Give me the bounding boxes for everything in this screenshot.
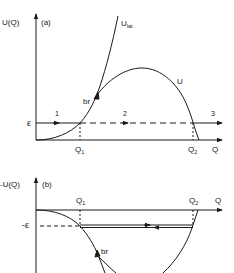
panel-a-y-label: U(Q) xyxy=(2,19,19,27)
panel-a-q1-label: Q1 xyxy=(75,146,84,156)
panel-a-q2-label: Q2 xyxy=(188,146,197,156)
panel-b-branch-label: br xyxy=(101,248,108,256)
panel-b xyxy=(36,178,222,273)
panel-b-tag: (b) xyxy=(42,181,52,189)
curve-u-label: U xyxy=(177,78,183,86)
curve-u xyxy=(97,68,199,140)
panel-a-q2-sub: 2 xyxy=(194,149,197,155)
panel-b-q1-sub: 1 xyxy=(82,200,85,206)
curve-u-lat-label-sub: lat xyxy=(127,23,133,29)
panel-b-x-label: Q xyxy=(215,197,221,205)
panel-b-q2-sub: 2 xyxy=(195,200,198,206)
panel-b-q2-label: Q2 xyxy=(189,197,198,207)
panel-b-q1-label: Q1 xyxy=(76,197,85,207)
panel-a-energy-label: ε xyxy=(27,119,31,128)
region-1-label: 1 xyxy=(55,110,59,117)
region-3-label: 3 xyxy=(211,110,215,117)
panel-a xyxy=(36,14,222,140)
branch-point-icon-a xyxy=(94,92,99,99)
curve-neg-u xyxy=(97,255,116,273)
panel-b-y-label: -U(Q) xyxy=(0,181,20,189)
region-2-label: 2 xyxy=(123,110,127,117)
curve-u-lat xyxy=(36,16,118,140)
panel-a-q1-sub: 1 xyxy=(81,149,84,155)
panel-a-tag: (a) xyxy=(41,19,51,27)
curve-u-lat-label: Ulat xyxy=(121,20,133,30)
branch-point-icon-b xyxy=(95,250,100,257)
panel-b-energy-label: -ε xyxy=(22,221,29,230)
panel-a-branch-label: br xyxy=(83,98,90,106)
curve-neg-u-lat xyxy=(36,210,105,273)
panel-a-x-label: Q xyxy=(212,146,218,154)
diagram-canvas xyxy=(0,0,234,273)
